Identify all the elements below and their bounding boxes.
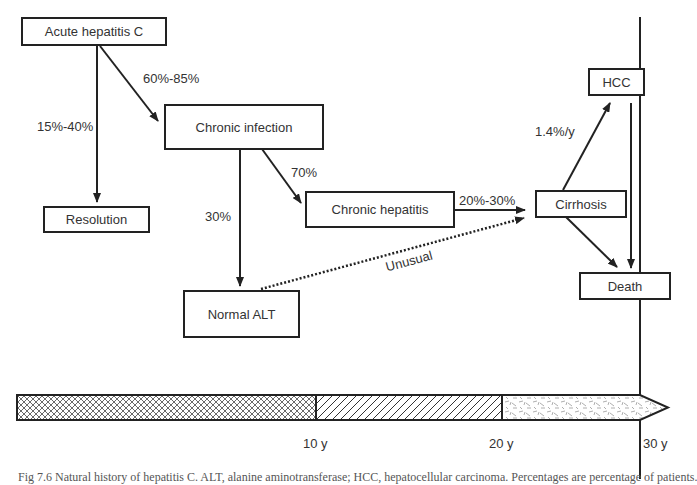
node-resolution: Resolution [43,206,150,233]
edge-label-hepatitis-to-cirrhosis: 20%-30% [459,193,515,208]
edge-label-acute-to-resolution: 15%-40% [37,119,93,134]
timeline-tick-10y: 10 y [303,436,328,451]
edge-label-cirrhosis-to-hcc: 1.4%/y [535,124,575,139]
node-label: Cirrhosis [555,197,606,212]
arrow-normal-to-cirrhosis [261,218,524,289]
node-cirrhosis: Cirrhosis [535,190,627,218]
node-label: Acute hepatitis C [45,24,143,39]
arrow-cirrhosis-to-death [566,217,617,267]
node-label: Chronic infection [196,120,293,135]
timeline-bar [17,395,668,420]
edge-label-chronic-to-normal: 30% [205,209,231,224]
node-hcc: HCC [588,68,645,96]
arrow-cirrhosis-to-hcc [563,103,610,190]
node-label: Death [608,279,643,294]
node-chronic-hepatitis: Chronic hepatitis [305,191,455,228]
node-normal-alt: Normal ALT [183,290,300,338]
node-label: Chronic hepatitis [332,202,429,217]
node-acute-hepatitis-c: Acute hepatitis C [21,17,167,46]
node-chronic-infection: Chronic infection [164,104,324,150]
figure-caption: Fig 7.6 Natural history of hepatitis C. … [18,470,697,485]
timeline-tick-30y: 30 y [643,436,668,451]
edge-label-acute-to-chronic: 60%-85% [143,71,199,86]
node-death: Death [579,272,671,300]
node-label: Normal ALT [208,307,276,322]
timeline-tick-20y: 20 y [489,436,514,451]
node-label: HCC [602,75,630,90]
edge-label-chronic-to-hepatitis: 70% [291,165,317,180]
node-label: Resolution [66,212,127,227]
